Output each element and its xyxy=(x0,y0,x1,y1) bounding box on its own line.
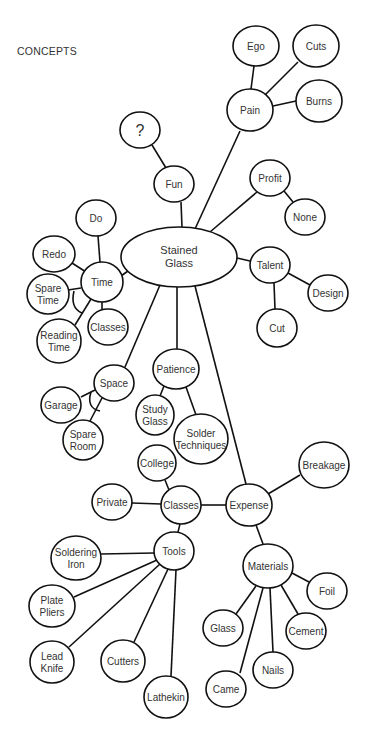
edge-profit-to-none xyxy=(284,191,293,202)
node-label: Stained xyxy=(160,244,197,256)
node-label: Came xyxy=(213,684,240,695)
node-spare-room[interactable]: SpareRoom xyxy=(63,420,103,460)
node-label: Private xyxy=(96,497,128,508)
node-label: Time xyxy=(37,295,59,306)
node-classes[interactable]: Classes xyxy=(161,486,201,524)
node-label: Glass xyxy=(142,416,168,427)
node-label: Patience xyxy=(157,364,196,375)
node-reading-time[interactable]: ReadingTime xyxy=(37,319,81,363)
edge-stained-glass-to-space xyxy=(125,285,160,367)
edge-talent-to-cut xyxy=(274,283,275,309)
node-solder-techniques[interactable]: SolderTechniques xyxy=(174,414,228,464)
node-breakage[interactable]: Breakage xyxy=(299,442,349,488)
node-glass[interactable]: Glass xyxy=(203,610,243,646)
edge-materials-to-nails xyxy=(270,588,273,652)
node-profit[interactable]: Profit xyxy=(250,160,290,196)
edge-patience-to-study-glass xyxy=(160,386,164,396)
node-talent[interactable]: Talent xyxy=(250,247,290,283)
edge-tools-to-soldering-iron xyxy=(101,553,154,554)
node-fun[interactable]: Fun xyxy=(154,166,194,202)
node-patience[interactable]: Patience xyxy=(153,349,199,389)
node-do[interactable]: Do xyxy=(76,200,116,236)
node-tools[interactable]: Tools xyxy=(154,532,194,570)
edge-pain-to-burns xyxy=(273,101,296,106)
node-label: Soldering xyxy=(55,547,97,558)
node-space[interactable]: Space xyxy=(94,365,134,401)
node-label: Foil xyxy=(319,586,335,597)
edge-classes-to-college xyxy=(165,480,169,490)
edge-pain-to-ego xyxy=(251,66,254,89)
node-label: Talent xyxy=(257,260,284,271)
node-classes-time[interactable]: Classes xyxy=(88,309,128,345)
edge-patience-to-solder-techniques xyxy=(186,387,196,415)
node-stained-glass[interactable]: StainedGlass xyxy=(121,227,237,287)
node-expense[interactable]: Expense xyxy=(226,484,272,526)
node-ego[interactable]: Ego xyxy=(233,26,279,66)
node-label: Lead xyxy=(41,651,63,662)
node-nails[interactable]: Nails xyxy=(253,652,293,688)
node-label: Design xyxy=(312,288,343,299)
node-label: Iron xyxy=(67,559,84,570)
node-came[interactable]: Came xyxy=(206,671,246,707)
node-label: Pain xyxy=(240,105,260,116)
node-label: Glass xyxy=(165,257,194,269)
node-redo[interactable]: Redo xyxy=(33,236,75,272)
node-label: Plate xyxy=(41,595,64,606)
node-design[interactable]: Design xyxy=(308,275,348,311)
node-label: Techniques xyxy=(176,440,227,451)
node-cut[interactable]: Cut xyxy=(257,309,297,347)
edge-time-to-spare-time xyxy=(68,288,81,290)
node-study-glass[interactable]: StudyGlass xyxy=(136,395,174,435)
edge-materials-to-foil xyxy=(292,573,309,582)
node-label: ? xyxy=(136,122,145,139)
node-soldering-iron[interactable]: SolderingIron xyxy=(51,536,101,580)
node-label: Breakage xyxy=(303,460,346,471)
node-label: Reading xyxy=(40,330,77,341)
node-label: Spare xyxy=(70,429,97,440)
node-burns[interactable]: Burns xyxy=(296,80,342,122)
node-label: Tools xyxy=(162,546,185,557)
node-none[interactable]: None xyxy=(285,199,325,235)
node-question[interactable]: ? xyxy=(120,112,160,148)
edge-talent-to-design xyxy=(288,273,310,285)
node-private[interactable]: Private xyxy=(92,484,132,520)
edge-classes-to-private xyxy=(132,503,161,504)
time-and-arc xyxy=(73,291,82,313)
edge-tools-to-cutters xyxy=(134,569,168,642)
node-cutters[interactable]: Cutters xyxy=(101,640,145,682)
node-label: Burns xyxy=(306,96,332,107)
node-label: Glass xyxy=(210,623,236,634)
edge-materials-to-glass xyxy=(236,586,256,614)
node-cuts[interactable]: Cuts xyxy=(293,25,339,67)
node-cement[interactable]: Cement xyxy=(286,613,326,649)
node-label: College xyxy=(140,458,174,469)
edge-expense-to-materials xyxy=(256,525,263,544)
node-lathekin[interactable]: Lathekin xyxy=(144,676,188,718)
edge-time-to-do xyxy=(98,236,100,262)
node-label: Expense xyxy=(230,500,269,511)
edge-stained-glass-to-fun xyxy=(181,202,182,227)
node-label: None xyxy=(293,212,317,223)
node-materials[interactable]: Materials xyxy=(243,544,293,588)
node-label: Room xyxy=(70,441,97,452)
node-label: Solder xyxy=(187,428,217,439)
edge-stained-glass-to-profit xyxy=(210,192,257,232)
edge-materials-to-cement xyxy=(281,585,298,614)
node-plate-pliers[interactable]: PlatePliers xyxy=(29,585,75,627)
edge-space-to-garage xyxy=(81,390,95,397)
node-label: Do xyxy=(90,213,103,224)
node-time[interactable]: Time xyxy=(81,262,123,302)
node-garage[interactable]: Garage xyxy=(41,387,81,423)
concept-nodes: StainedGlassPainEgoCutsBurns?FunProfitNo… xyxy=(27,25,349,718)
node-foil[interactable]: Foil xyxy=(307,573,347,609)
node-pain[interactable]: Pain xyxy=(227,89,273,131)
node-label: Cement xyxy=(288,626,323,637)
edge-stained-glass-to-talent xyxy=(237,258,250,261)
edge-classes-to-tools xyxy=(178,524,180,532)
edge-tools-to-lathekin xyxy=(171,570,176,676)
node-college[interactable]: College xyxy=(138,445,176,481)
node-label: Knife xyxy=(41,663,64,674)
node-lead-knife[interactable]: LeadKnife xyxy=(30,641,74,683)
node-label: Materials xyxy=(248,561,289,572)
node-spare-time[interactable]: SpareTime xyxy=(27,274,69,314)
